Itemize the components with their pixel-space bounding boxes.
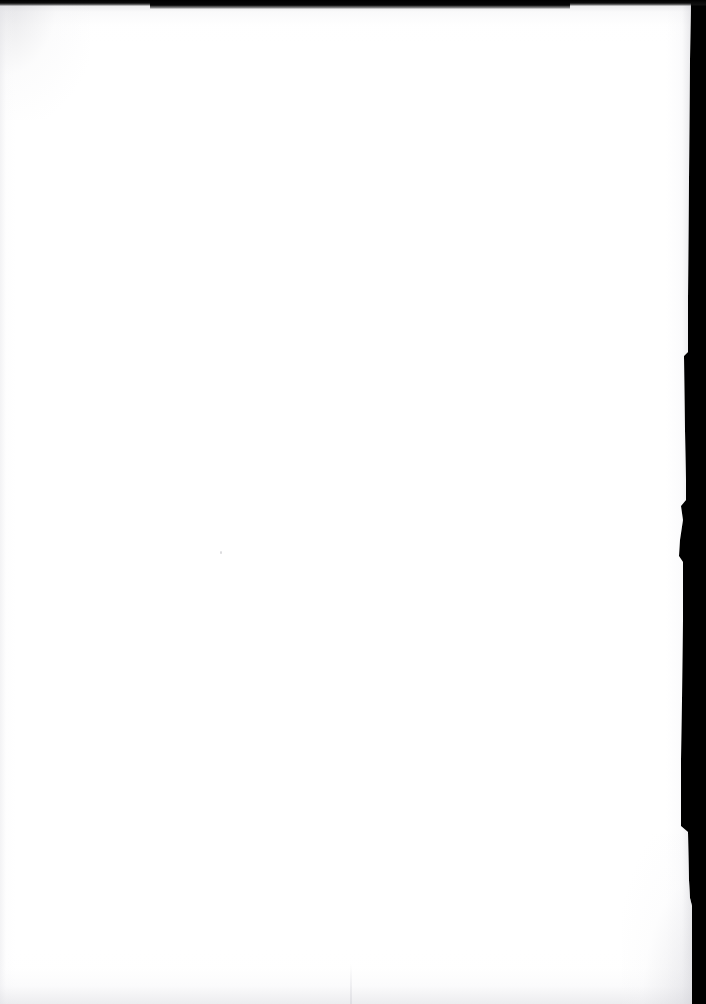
page-right-shading	[666, 0, 692, 1004]
page-bottom-seam	[350, 964, 352, 1004]
page-bottom-right-shading	[622, 834, 692, 1004]
page-sheet	[0, 0, 706, 1004]
scanned-page-canvas: Blank page	[0, 0, 706, 1004]
top-black-border-dip	[150, 0, 570, 9]
page-bottom-shading	[0, 948, 706, 1004]
page-left-shading	[0, 0, 16, 1004]
page-top-left-shading	[0, 0, 90, 120]
dust-speck	[220, 551, 222, 554]
